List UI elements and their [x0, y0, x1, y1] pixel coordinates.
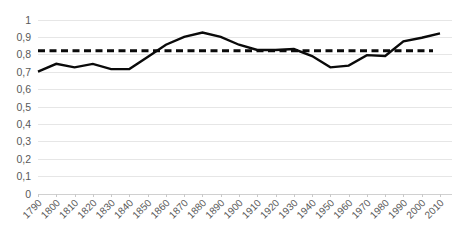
- ytick-label: 0,6: [16, 83, 31, 95]
- xtick-label: 1850: [130, 197, 154, 221]
- ytick-label: 0,7: [16, 66, 31, 78]
- xtick-label: 1900: [221, 197, 245, 221]
- xtick-label: 1790: [20, 197, 44, 221]
- xtick-label: 1930: [276, 197, 300, 221]
- xtick-label: 1960: [331, 197, 355, 221]
- xtick-label: 1840: [112, 197, 136, 221]
- xtick-label: 1870: [167, 197, 191, 221]
- xtick-label: 1920: [258, 197, 282, 221]
- ytick-label: 0,9: [16, 31, 31, 43]
- xtick-label: 1820: [75, 197, 99, 221]
- xtick-label: 1800: [39, 197, 63, 221]
- ytick-label: 1: [25, 14, 31, 26]
- ytick-label: 0,2: [16, 153, 31, 165]
- xtick-label: 1980: [368, 197, 392, 221]
- ytick-label: 0: [25, 188, 31, 200]
- xtick-label: 1970: [349, 197, 373, 221]
- chart-canvas: 00,10,20,30,40,50,60,70,80,9117901800181…: [0, 0, 457, 233]
- xtick-label: 1810: [57, 197, 81, 221]
- ytick-label: 0,4: [16, 118, 31, 130]
- xtick-label: 1990: [386, 197, 410, 221]
- xtick-label: 1830: [93, 197, 117, 221]
- xtick-label: 1950: [313, 197, 337, 221]
- xtick-label: 1880: [185, 197, 209, 221]
- xtick-label: 2010: [422, 197, 446, 221]
- xtick-label: 1860: [148, 197, 172, 221]
- ytick-label: 0,8: [16, 48, 31, 60]
- xtick-label: 1940: [294, 197, 318, 221]
- line-chart: 00,10,20,30,40,50,60,70,80,9117901800181…: [0, 0, 457, 233]
- xtick-label: 1910: [240, 197, 264, 221]
- ytick-label: 0,5: [16, 101, 31, 113]
- ytick-label: 0,3: [16, 135, 31, 147]
- xtick-label: 1890: [203, 197, 227, 221]
- xtick-label: 2000: [404, 197, 428, 221]
- ytick-label: 0,1: [16, 170, 31, 182]
